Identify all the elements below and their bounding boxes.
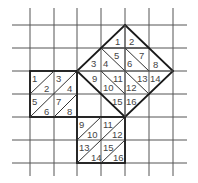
hypotenuse-square: 1 2 3 4 5 6 7 8 9 10 11 12 13 14 15 16 [77, 25, 173, 117]
piece-label: 4 [67, 83, 72, 94]
piece-label: 8 [153, 59, 158, 70]
piece-label: 9 [92, 73, 97, 84]
piece-label: 6 [127, 58, 132, 69]
piece-label: 5 [114, 50, 119, 61]
piece-label: 5 [32, 96, 37, 107]
piece-label: 6 [44, 106, 49, 117]
piece-label: 2 [129, 36, 134, 47]
piece-label: 14 [91, 152, 102, 163]
piece-label: 9 [79, 119, 84, 130]
piece-label: 11 [113, 73, 123, 84]
piece-label: 10 [103, 82, 114, 93]
piece-label: 12 [112, 129, 123, 140]
piece-label: 13 [79, 142, 90, 153]
piece-label: 3 [91, 58, 96, 69]
piece-label: 7 [56, 96, 61, 107]
piece-label: 1 [115, 36, 120, 47]
piece-label: 7 [139, 50, 144, 61]
piece-label: 13 [137, 73, 148, 84]
piece-label: 4 [103, 58, 108, 69]
piece-label: 14 [150, 73, 161, 84]
piece-label: 8 [67, 106, 72, 117]
piece-label: 15 [103, 142, 114, 153]
piece-label: 16 [126, 96, 137, 107]
pythagorean-grid-diagram: 1 2 3 4 5 6 7 8 9 10 11 12 13 14 15 16 1… [0, 0, 198, 183]
piece-label: 2 [44, 83, 49, 94]
piece-label: 16 [113, 152, 124, 163]
piece-label: 1 [32, 73, 37, 84]
piece-label: 10 [87, 129, 98, 140]
piece-label: 15 [112, 96, 123, 107]
piece-label: 12 [126, 82, 137, 93]
piece-label: 3 [56, 73, 61, 84]
